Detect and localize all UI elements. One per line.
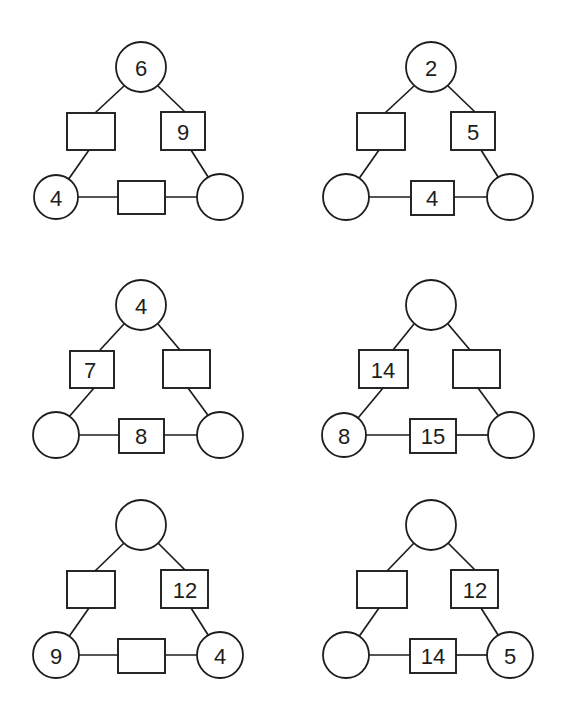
node-bottom-right-circle-label: 5 xyxy=(504,644,516,669)
node-left-square[interactable] xyxy=(357,571,407,608)
edge-top-to-left-square xyxy=(387,543,414,571)
edge-left-square-to-bottom-left xyxy=(358,608,379,638)
puzzle-4-svg: 14 8 15 xyxy=(290,238,580,476)
edge-right-square-to-bottom-right xyxy=(478,388,500,418)
puzzle-diagram: 12 9 4 xyxy=(0,476,290,720)
node-right-square[interactable] xyxy=(453,350,500,388)
node-bottom-right-circle[interactable] xyxy=(487,174,533,220)
node-top-circle-label: 4 xyxy=(135,294,147,319)
edge-top-to-left-square xyxy=(95,86,124,113)
node-right-square-label: 12 xyxy=(463,578,487,603)
node-right-square[interactable] xyxy=(163,350,210,388)
node-bottom-square-label: 14 xyxy=(421,644,445,669)
worksheet-page: 6 9 4 xyxy=(0,0,580,720)
node-right-square-label: 9 xyxy=(177,120,189,145)
puzzle-diagram: 2 5 4 xyxy=(290,0,580,238)
node-bottom-right-circle[interactable] xyxy=(197,412,243,458)
node-bottom-right-circle[interactable] xyxy=(488,412,534,458)
edge-right-square-to-bottom-right xyxy=(191,150,210,180)
edge-top-to-left-square xyxy=(385,86,414,113)
node-bottom-left-circle[interactable] xyxy=(33,412,79,458)
node-bottom-left-circle-label: 9 xyxy=(50,644,62,669)
edge-top-to-left-square xyxy=(100,324,124,350)
puzzle-diagram: 12 14 5 xyxy=(290,476,580,720)
edge-left-square-to-bottom-left xyxy=(68,608,89,638)
edge-top-to-right-square xyxy=(158,86,185,112)
puzzle-5-svg: 12 9 4 xyxy=(0,476,290,720)
puzzle-2-svg: 2 5 4 xyxy=(290,0,580,238)
edge-top-to-right-square xyxy=(448,324,470,350)
edge-right-square-to-bottom-right xyxy=(191,608,210,638)
puzzle-diagram: 6 9 4 xyxy=(0,0,290,238)
node-bottom-left-circle[interactable] xyxy=(323,174,369,220)
edge-left-square-to-bottom-left xyxy=(68,150,89,180)
edge-right-square-to-bottom-right xyxy=(188,388,210,418)
node-bottom-left-circle-label: 4 xyxy=(50,186,62,211)
node-left-square[interactable] xyxy=(357,113,405,150)
edge-left-square-to-bottom-left xyxy=(358,150,379,180)
edge-top-to-right-square xyxy=(448,543,475,570)
edge-top-to-left-square xyxy=(95,543,124,571)
edge-left-square-to-bottom-left xyxy=(358,388,383,418)
node-left-square[interactable] xyxy=(67,113,115,150)
node-bottom-right-circle-label: 4 xyxy=(214,644,226,669)
puzzle-grid: 6 9 4 xyxy=(0,0,580,720)
puzzle-6-svg: 12 14 5 xyxy=(290,476,580,720)
node-top-circle[interactable] xyxy=(406,280,456,330)
node-top-circle[interactable] xyxy=(406,500,456,550)
puzzle-1-svg: 6 9 4 xyxy=(0,0,290,238)
node-top-circle-label: 2 xyxy=(425,56,437,81)
node-bottom-square[interactable] xyxy=(118,181,165,214)
edge-right-square-to-bottom-right xyxy=(481,608,500,638)
edge-top-to-right-square xyxy=(448,86,475,112)
edge-right-square-to-bottom-right xyxy=(481,150,500,180)
node-bottom-left-circle[interactable] xyxy=(323,632,369,678)
node-bottom-square-label: 15 xyxy=(421,424,445,449)
node-right-square-label: 5 xyxy=(467,120,479,145)
node-top-circle[interactable] xyxy=(116,500,166,550)
puzzle-3-svg: 4 7 8 xyxy=(0,238,290,476)
node-bottom-square[interactable] xyxy=(118,639,165,673)
node-left-square-label: 14 xyxy=(371,358,395,383)
node-right-square-label: 12 xyxy=(173,578,197,603)
node-top-circle-label: 6 xyxy=(135,56,147,81)
node-bottom-right-circle[interactable] xyxy=(197,174,243,220)
puzzle-diagram: 4 7 8 xyxy=(0,238,290,476)
node-bottom-square-label: 8 xyxy=(135,424,147,449)
node-left-square[interactable] xyxy=(67,571,115,608)
node-left-square-label: 7 xyxy=(84,358,96,383)
node-bottom-square-label: 4 xyxy=(426,186,438,211)
puzzle-diagram: 14 8 15 xyxy=(290,238,580,476)
edge-top-to-right-square xyxy=(158,324,180,350)
edge-top-to-right-square xyxy=(158,543,185,570)
edge-left-square-to-bottom-left xyxy=(68,388,94,418)
edge-top-to-left-square xyxy=(393,324,414,350)
node-bottom-left-circle-label: 8 xyxy=(338,424,350,449)
